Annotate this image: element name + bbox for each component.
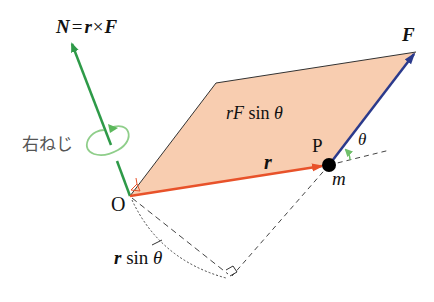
area-label: rF sin θ xyxy=(226,103,283,124)
torque-vector-lower xyxy=(117,161,130,196)
rotation-arrow-icon xyxy=(87,126,129,155)
right-angle-marker xyxy=(226,266,237,276)
origin-label: O xyxy=(111,193,125,216)
area-sin: sin xyxy=(249,103,270,123)
theta-angle-arc xyxy=(346,150,350,160)
position-vector-label: r xyxy=(264,151,272,174)
formula-N: N xyxy=(56,16,70,37)
formula-F: F xyxy=(105,16,118,37)
area-theta: θ xyxy=(274,103,283,123)
torque-diagram: N=r×F F 右ねじ rF sin θ P θ r m O r sin θ xyxy=(0,0,434,302)
lever-sin: sin xyxy=(126,247,148,268)
right-screw-label: 右ねじ xyxy=(22,130,73,155)
formula-eq: = xyxy=(72,16,83,37)
torque-formula: N=r×F xyxy=(56,16,117,38)
lever-r: r xyxy=(114,247,121,268)
point-P-label: P xyxy=(312,135,323,157)
lever-arm-label: r sin θ xyxy=(114,247,162,269)
force-line-extension xyxy=(232,165,329,276)
lever-theta: θ xyxy=(153,247,162,268)
torque-vector-upper xyxy=(72,44,111,145)
formula-times: × xyxy=(93,16,104,37)
area-rF: rF xyxy=(226,103,244,123)
force-label: F xyxy=(402,24,415,46)
lever-arm-tick xyxy=(152,240,162,245)
theta-label: θ xyxy=(358,130,366,150)
mass-label: m xyxy=(332,168,346,190)
formula-r: r xyxy=(84,16,91,37)
